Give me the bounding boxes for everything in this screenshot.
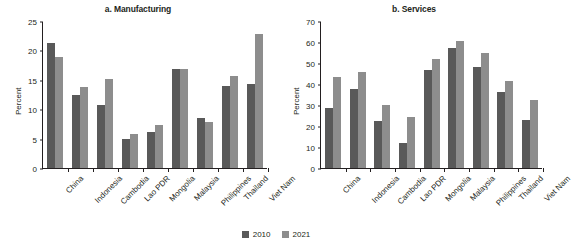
y-axis-tick-mark bbox=[40, 169, 43, 170]
bar-2010 bbox=[399, 143, 407, 168]
bar-2021 bbox=[255, 34, 263, 168]
y-axis-tick-mark bbox=[40, 139, 43, 140]
legend-item: 2021 bbox=[282, 230, 311, 239]
y-axis-tick-label: 30 bbox=[306, 102, 318, 111]
x-axis-label: Mongolia bbox=[443, 174, 472, 203]
bar-2010 bbox=[97, 105, 105, 168]
bar-2021 bbox=[333, 77, 341, 168]
x-axis-label: Mongolia bbox=[167, 174, 196, 203]
bar-group bbox=[167, 22, 192, 168]
y-axis-tick: 10 bbox=[306, 144, 321, 153]
bar-2010 bbox=[72, 95, 80, 168]
x-axis-tick-mark bbox=[346, 168, 347, 172]
y-axis-title: Percent bbox=[14, 87, 23, 115]
bar-2021 bbox=[505, 81, 513, 168]
bar-group bbox=[321, 22, 346, 168]
y-axis-tick: 5 bbox=[33, 135, 43, 144]
y-axis-tick-label: 25 bbox=[28, 18, 40, 27]
y-axis-tick-mark bbox=[40, 110, 43, 111]
bar-group bbox=[370, 22, 395, 168]
bar-2010 bbox=[522, 120, 530, 168]
legend-item: 2010 bbox=[242, 230, 271, 239]
y-axis-tick-mark bbox=[318, 169, 321, 170]
bar-2021 bbox=[382, 105, 390, 168]
y-axis-tick-label: 40 bbox=[306, 81, 318, 90]
bar-group bbox=[395, 22, 420, 168]
x-axis-label: China bbox=[64, 174, 85, 195]
y-axis-title: Percent bbox=[292, 87, 301, 115]
x-axis-label: China bbox=[341, 174, 362, 195]
bar-group bbox=[468, 22, 493, 168]
x-axis-tick-mark bbox=[395, 168, 396, 172]
x-axis-tick-mark bbox=[193, 168, 194, 172]
y-axis-tick: 50 bbox=[306, 60, 321, 69]
y-axis-tick-label: 10 bbox=[306, 144, 318, 153]
bar-2021 bbox=[105, 79, 113, 168]
y-axis-tick: 10 bbox=[28, 106, 43, 115]
bar-group bbox=[242, 22, 267, 168]
bar-2010 bbox=[197, 118, 205, 168]
y-axis-tick-mark bbox=[40, 22, 43, 23]
bar-2021 bbox=[456, 41, 464, 168]
bar-groups bbox=[43, 22, 267, 168]
bar-2010 bbox=[47, 43, 55, 168]
bar-2010 bbox=[424, 70, 432, 168]
bar-2010 bbox=[147, 132, 155, 168]
bar-group bbox=[93, 22, 118, 168]
bar-group bbox=[143, 22, 168, 168]
y-axis-tick: 40 bbox=[306, 81, 321, 90]
x-axis-tick-mark bbox=[168, 168, 169, 172]
x-axis-tick-mark bbox=[143, 168, 144, 172]
bar-group bbox=[43, 22, 68, 168]
y-axis-tick-mark bbox=[318, 85, 321, 86]
bar-2021 bbox=[155, 125, 163, 169]
panel-title: a. Manufacturing bbox=[0, 4, 276, 14]
y-axis-tick-label: 70 bbox=[306, 18, 318, 27]
bar-groups bbox=[321, 22, 542, 168]
y-axis-tick: 30 bbox=[306, 102, 321, 111]
y-axis-tick-mark bbox=[318, 127, 321, 128]
y-axis-tick-label: 50 bbox=[306, 60, 318, 69]
bar-2021 bbox=[230, 76, 238, 168]
y-axis-tick-label: 15 bbox=[28, 76, 40, 85]
bar-2021 bbox=[481, 53, 489, 168]
y-axis-tick-label: 20 bbox=[28, 47, 40, 56]
bar-2021 bbox=[358, 72, 366, 168]
bar-group bbox=[493, 22, 518, 168]
bar-2010 bbox=[350, 89, 358, 168]
legend-swatch bbox=[282, 231, 289, 238]
bar-2021 bbox=[407, 117, 415, 168]
bar-group bbox=[444, 22, 469, 168]
bar-2021 bbox=[80, 87, 88, 168]
x-axis-tick-mark bbox=[243, 168, 244, 172]
bar-2010 bbox=[497, 92, 505, 168]
y-axis-tick: 0 bbox=[33, 165, 43, 174]
bar-2021 bbox=[180, 69, 188, 168]
y-axis-tick-label: 0 bbox=[33, 165, 40, 174]
x-axis-tick-mark bbox=[268, 168, 269, 172]
legend-label: 2021 bbox=[293, 230, 311, 239]
y-axis-tick: 15 bbox=[28, 76, 43, 85]
bar-2010 bbox=[122, 139, 130, 168]
x-axis-tick-mark bbox=[370, 168, 371, 172]
x-axis-tick-mark bbox=[543, 168, 544, 172]
x-axis-tick-mark bbox=[93, 168, 94, 172]
x-axis-label: Viet Nam bbox=[542, 174, 572, 204]
y-axis-tick: 20 bbox=[306, 123, 321, 132]
bar-group bbox=[68, 22, 93, 168]
legend-label: 2010 bbox=[253, 230, 271, 239]
bar-2010 bbox=[325, 108, 333, 168]
plot-area: 010203040506070 bbox=[320, 22, 542, 169]
bar-group bbox=[217, 22, 242, 168]
x-axis-tick-mark bbox=[469, 168, 470, 172]
bar-2010 bbox=[247, 84, 255, 168]
chart-panels: a. Manufacturing Percent 0510152025 Chin… bbox=[0, 0, 552, 215]
bar-group bbox=[192, 22, 217, 168]
y-axis-tick-mark bbox=[318, 43, 321, 44]
bar-2010 bbox=[473, 67, 481, 168]
legend-swatch bbox=[242, 231, 249, 238]
x-axis-tick-mark bbox=[494, 168, 495, 172]
chart-panel-manufacturing: a. Manufacturing Percent 0510152025 Chin… bbox=[0, 0, 276, 215]
bar-group bbox=[346, 22, 371, 168]
